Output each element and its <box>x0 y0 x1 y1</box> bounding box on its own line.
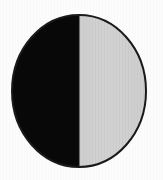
segment-left-half <box>11 14 79 168</box>
figure-canvas <box>0 0 163 180</box>
segment-right-half-halftone <box>79 14 147 168</box>
circle-diagram-svg <box>11 14 147 168</box>
half-shaded-circle-figure <box>11 14 147 168</box>
